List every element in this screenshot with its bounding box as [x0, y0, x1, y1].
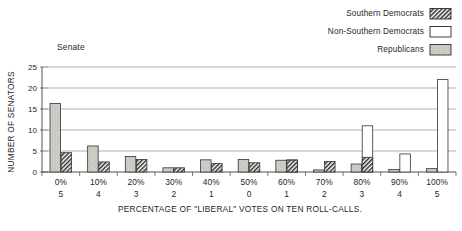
- panel-label-senate: Senate: [57, 42, 85, 52]
- x-axis-title: PERCENTAGE OF "LIBERAL" VOTES ON TEN ROL…: [118, 204, 362, 214]
- legend-item-republicans: Republicans: [377, 45, 451, 56]
- x-tick-label: 50%: [240, 177, 258, 187]
- y-axis-title: NUMBER OF SENATORS: [6, 71, 16, 173]
- x-tick-label: 0%: [55, 177, 68, 187]
- legend-label-non-southern-democrats: Non-Southern Democrats: [328, 27, 424, 36]
- legend-item-southern-democrats: Southern Democrats: [346, 9, 451, 20]
- x-tick-label: 10%: [90, 177, 108, 187]
- legend-swatch-republicans: [430, 45, 451, 56]
- bar: [163, 168, 174, 172]
- x-sub-label: 5: [58, 189, 63, 199]
- bar: [50, 104, 61, 172]
- bar: [276, 160, 287, 172]
- y-tick-label: 10: [28, 126, 37, 135]
- bar: [88, 146, 99, 172]
- bar: [174, 168, 185, 172]
- y-tick-label: 5: [33, 147, 38, 156]
- y-tick-label: 20: [28, 84, 37, 93]
- y-tick-label: 0: [33, 168, 38, 177]
- bar: [313, 170, 324, 172]
- x-sub-label: 1: [284, 189, 289, 199]
- x-sub-label: 3: [134, 189, 139, 199]
- x-tick-label: 90%: [391, 177, 409, 187]
- x-tick-label: 80%: [353, 177, 371, 187]
- x-tick-label: 20%: [128, 177, 146, 187]
- legend-swatch-non-southern-democrats: [430, 27, 451, 38]
- x-tick-label: 70%: [316, 177, 334, 187]
- bar-group: [276, 160, 298, 172]
- x-sub-label: 1: [209, 189, 214, 199]
- bar: [238, 159, 249, 172]
- bar: [325, 162, 336, 173]
- legend-swatch-southern-democrats: [430, 9, 451, 20]
- x-tick-label: 60%: [278, 177, 296, 187]
- y-tick-label: 15: [28, 105, 37, 114]
- bar: [351, 164, 362, 172]
- bar: [287, 160, 298, 172]
- senate-roll-call-histogram: Southern Democrats Non-Southern Democrat…: [0, 0, 462, 231]
- y-axis-title-text: NUMBER OF SENATORS: [6, 71, 16, 173]
- bar: [400, 154, 411, 172]
- legend-label-republicans: Republicans: [377, 45, 424, 54]
- x-sub-label: 5: [435, 189, 440, 199]
- legend-label-southern-democrats: Southern Democrats: [346, 9, 424, 18]
- bar: [437, 80, 448, 172]
- x-tick-label: 30%: [165, 177, 183, 187]
- bar: [136, 159, 147, 172]
- x-sub-label: 0: [247, 189, 252, 199]
- legend-item-non-southern-democrats: Non-Southern Democrats: [328, 27, 451, 38]
- bar: [212, 164, 223, 172]
- bar: [61, 153, 71, 172]
- x-sub-label: 2: [171, 189, 176, 199]
- x-sub-label: 4: [96, 189, 101, 199]
- bar: [201, 160, 212, 172]
- x-sub-label: 2: [322, 189, 327, 199]
- bar: [125, 156, 136, 172]
- bar: [426, 169, 437, 172]
- x-sub-label: 3: [360, 189, 365, 199]
- x-tick-label: 40%: [203, 177, 221, 187]
- bar: [389, 169, 400, 172]
- bar-group: [163, 168, 185, 172]
- x-tick-label: 100%: [426, 177, 448, 187]
- y-tick-label: 25: [28, 63, 37, 72]
- bar: [249, 163, 259, 172]
- bar: [99, 162, 110, 172]
- bar: [362, 157, 373, 172]
- x-sub-label: 4: [397, 189, 402, 199]
